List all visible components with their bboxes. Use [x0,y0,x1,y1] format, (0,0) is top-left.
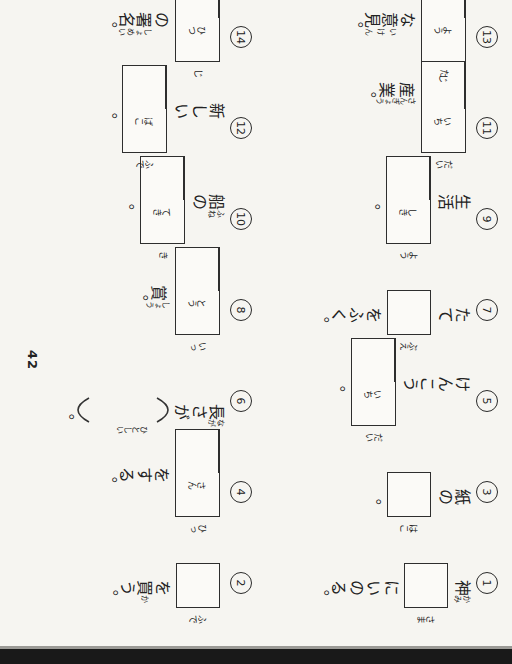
problem-text: 生活ようしき。 [257,196,471,244]
furigana: か [136,594,154,603]
problem-number: 7 [476,299,498,321]
problem-text: たような意見いけん。 [257,14,471,62]
problem-5: 5けんこうだいいち。 [252,368,498,458]
kanji-cell[interactable]: ひつ [176,0,219,18]
problem-number: 9 [476,208,498,230]
text-run: う。 [101,577,136,596]
box-furigana: さま [418,614,436,623]
problem-number: 2 [230,572,252,594]
problem-number: 12 [230,117,252,139]
problem-13: 13たような意見いけん。 [252,4,498,94]
box-furigana: ふで [189,614,207,623]
answer-box[interactable]: さま [405,563,449,608]
kanji-cell[interactable]: はこ [388,473,430,516]
problem-number: 6 [230,390,252,412]
text-run: 。 [365,486,383,505]
answer-box[interactable]: はこ [387,472,431,517]
problem-7: 7たてぶえをふく。 [252,277,498,367]
furigana: なが [208,418,226,427]
page-number: 42 [25,350,40,370]
box-furigana: さん [188,480,206,489]
page-edge-shadow [0,646,512,664]
ruby-text: 船ふね [208,191,226,210]
ruby-text: 買か [136,577,154,596]
text-run: けんこう [401,373,471,392]
problem-columns: 1神かみさまにいのる。2ふでを買かう。3紙のはこ。4ひっさんをする。5けんこうだ… [2,4,498,640]
kanji-cell[interactable]: ぶえ [388,291,430,334]
box-furigana: はこ [400,523,418,532]
problem-2: 2ふでを買かう。 [6,550,252,640]
text-run: 。 [100,100,118,119]
problem-number: 4 [230,481,252,503]
text-run: さが [173,401,208,420]
text-run: の [153,9,171,28]
ruby-text: 長なが [208,401,226,420]
text-run: 生活 [436,191,471,210]
problem-column: 13たような意見いけん。14じひつの署名しょめい。 [2,4,498,94]
problem-number: 10 [230,208,252,230]
answer-box[interactable]: たよう [421,0,466,62]
problem-number: 5 [476,390,498,412]
problem-text: 船ふねのきてき。 [11,196,225,244]
furigana: ふね [208,208,226,217]
text-run: たて [436,304,471,323]
problem-text: ふでを買かう。 [11,560,225,608]
box-furigana: じ [194,68,203,77]
problem-text: 長ながさがひとしい。 [11,378,225,426]
furigana: しょめい [118,26,153,35]
text-run: 。 [329,373,347,392]
problem-text: 新しいふでばこ。 [11,105,225,153]
text-run: を [154,577,172,596]
problem-number: 8 [230,299,252,321]
box-furigana: いち [364,389,382,398]
box-furigana: ばこ [136,116,154,125]
problem-text: じひつの署名しょめい。 [11,14,225,62]
box-furigana: いち [434,116,452,125]
problem-number: 3 [476,481,498,503]
problem-column: 5けんこうだいいち。6長ながさがひとしい。 [2,368,498,458]
problem-1: 1神かみさまにいのる。 [252,550,498,640]
text-run: の [190,191,208,210]
problem-text: いっとう賞しょう。 [11,287,225,335]
problem-number: 14 [230,26,252,48]
text-run: 新しい [173,100,226,119]
answer-box[interactable]: ふで [176,563,220,608]
problem-column: 3紙のはこ。4ひっさんをする。 [2,459,498,549]
answer-space[interactable]: ひとしい [93,400,155,420]
text-run: な [399,9,417,28]
ruby-text: 意見いけん [364,9,399,28]
text-run: にいのる。 [312,577,400,596]
ruby-text: 神かみ [454,577,472,596]
kanji-cell[interactable]: さま [406,564,448,607]
problem-text: たてぶえをふく。 [257,287,471,335]
box-furigana: よう [434,25,452,34]
problem-6: 6長ながさがひとしい。 [6,368,252,458]
open-paren [157,395,171,425]
answer-furigana: ひとしい [117,425,149,433]
kanji-cell[interactable]: ふで [177,564,219,607]
problem-column: 9生活ようしき。10船ふねのきてき。 [2,186,498,276]
text-run: 。 [118,191,136,210]
text-run: 。 [346,9,364,28]
box-furigana: ひつ [188,25,206,34]
problem-4: 4ひっさんをする。 [6,459,252,549]
problem-8: 8いっとう賞しょう。 [6,277,252,367]
problem-number: 11 [476,117,498,139]
box-furigana: とう [188,298,206,307]
furigana: かみ [454,594,472,603]
problem-11: 11だいいちじ産業さんぎょう。 [252,95,498,185]
answer-box[interactable]: じひつ [175,0,220,62]
problem-number: 1 [476,572,498,594]
box-furigana: ぶえ [400,341,418,350]
text-run: 。 [57,401,75,420]
problem-14: 14じひつの署名しょめい。 [6,4,252,94]
kanji-cell[interactable]: よう [422,0,465,18]
problem-3: 3紙のはこ。 [252,459,498,549]
box-furigana: た [440,68,449,77]
answer-box[interactable]: ぶえ [387,290,431,335]
box-furigana: ひっ [189,523,207,532]
problem-text: だいいちじ産業さんぎょう。 [257,105,471,153]
problem-12: 12新しいふでばこ。 [6,95,252,185]
problem-number: 13 [476,26,498,48]
furigana: さんぎょう [376,96,416,105]
